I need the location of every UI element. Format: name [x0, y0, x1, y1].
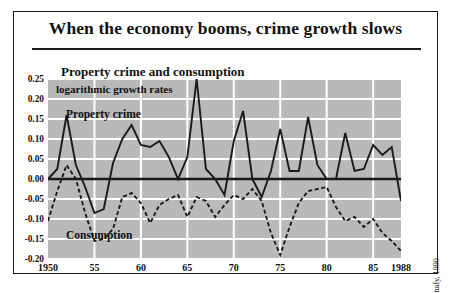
y-tick-label: 0.15 [28, 114, 44, 124]
chart-title: When the economy booms, crime growth slo… [14, 18, 437, 39]
series-label-property-crime: Property crime [66, 108, 141, 120]
y-tick-label: 0.20 [28, 94, 44, 104]
y-tick-label: -0.10 [25, 214, 44, 224]
y-tick-label: -0.15 [25, 234, 44, 244]
y-tick-label: -0.05 [25, 194, 44, 204]
x-tick-label: 1988 [391, 262, 411, 273]
annotation-log-growth-rates: logarithmic growth rates [56, 83, 173, 95]
y-tick-label: 0.25 [28, 74, 44, 84]
x-tick-label: 75 [275, 262, 285, 273]
source-note: Source: Home Office Research Study, 1990 [432, 258, 441, 293]
x-tick-label: 60 [136, 262, 146, 273]
plot-area: logarithmic growth rates Property crime … [48, 79, 401, 259]
x-tick-label: 55 [89, 262, 99, 273]
y-tick-label: 0.10 [28, 134, 44, 144]
x-tick-label: 70 [229, 262, 239, 273]
x-tick-label: 80 [322, 262, 332, 273]
chart-subtitle: Property crime and consumption [61, 64, 245, 80]
y-tick-label: 0.05 [28, 154, 44, 164]
x-tick-label: 1950 [38, 262, 58, 273]
series-label-consumption: Consumption [66, 229, 132, 241]
chart-figure: When the economy booms, crime growth slo… [13, 11, 438, 274]
title-divider [32, 48, 421, 50]
y-tick-label: 0.00 [28, 174, 44, 184]
x-tick-label: 85 [368, 262, 378, 273]
x-tick-label: 65 [182, 262, 192, 273]
